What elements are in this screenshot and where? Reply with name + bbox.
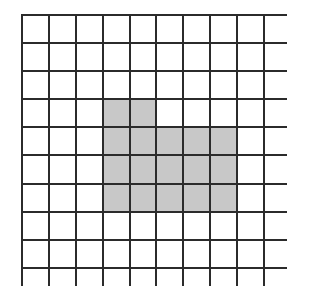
grid-cell-empty[interactable] <box>76 184 103 212</box>
grid-cell-empty[interactable] <box>103 212 130 240</box>
grid-cell-empty[interactable] <box>156 43 183 71</box>
grid-cell-empty[interactable] <box>49 43 76 71</box>
grid-cell-empty[interactable] <box>183 268 210 286</box>
grid-cell-empty[interactable] <box>210 15 237 43</box>
grid-cell-empty[interactable] <box>156 15 183 43</box>
grid-cell-shaded[interactable] <box>130 184 157 212</box>
grid-cell-empty[interactable] <box>103 71 130 99</box>
grid-cell-empty[interactable] <box>103 15 130 43</box>
grid-cell-empty[interactable] <box>103 43 130 71</box>
grid-cell-shaded[interactable] <box>156 155 183 183</box>
grid-cell-empty[interactable] <box>210 99 237 127</box>
grid-cell-empty[interactable] <box>264 268 287 286</box>
grid-cell-empty[interactable] <box>237 212 264 240</box>
grid-cell-shaded[interactable] <box>210 155 237 183</box>
grid-cell-empty[interactable] <box>49 240 76 268</box>
grid-cell-empty[interactable] <box>237 127 264 155</box>
grid-cell-shaded[interactable] <box>103 127 130 155</box>
grid-cell-empty[interactable] <box>130 268 157 286</box>
grid-cell-empty[interactable] <box>49 268 76 286</box>
grid-cell-empty[interactable] <box>237 155 264 183</box>
grid-cell-shaded[interactable] <box>130 155 157 183</box>
grid-cell-empty[interactable] <box>264 240 287 268</box>
grid-cell-empty[interactable] <box>156 240 183 268</box>
grid-cell-empty[interactable] <box>156 99 183 127</box>
grid-cell-empty[interactable] <box>210 71 237 99</box>
grid-cell-empty[interactable] <box>130 212 157 240</box>
grid-cell-empty[interactable] <box>237 43 264 71</box>
grid-cell-empty[interactable] <box>237 71 264 99</box>
grid-cell-empty[interactable] <box>130 43 157 71</box>
grid-cell-empty[interactable] <box>103 268 130 286</box>
grid-cell-shaded[interactable] <box>210 184 237 212</box>
grid-cell-empty[interactable] <box>183 43 210 71</box>
grid-cell-empty[interactable] <box>22 71 49 99</box>
grid-cell-empty[interactable] <box>76 268 103 286</box>
grid-cell-empty[interactable] <box>49 212 76 240</box>
grid-cell-empty[interactable] <box>156 212 183 240</box>
grid-cell-empty[interactable] <box>264 43 287 71</box>
grid-cell-shaded[interactable] <box>103 184 130 212</box>
grid-cell-empty[interactable] <box>237 15 264 43</box>
grid-cell-empty[interactable] <box>183 71 210 99</box>
grid-cell-empty[interactable] <box>130 240 157 268</box>
grid-cell-empty[interactable] <box>76 240 103 268</box>
grid-cell-shaded[interactable] <box>183 184 210 212</box>
grid-cell-empty[interactable] <box>76 212 103 240</box>
grid-cell-shaded[interactable] <box>130 127 157 155</box>
grid-cell-empty[interactable] <box>22 155 49 183</box>
grid-cell-empty[interactable] <box>183 212 210 240</box>
grid-cell-empty[interactable] <box>183 15 210 43</box>
grid-cell-empty[interactable] <box>76 71 103 99</box>
grid-cell-shaded[interactable] <box>183 127 210 155</box>
grid-cell-shaded[interactable] <box>103 99 130 127</box>
grid-cell-empty[interactable] <box>76 43 103 71</box>
grid-cell-empty[interactable] <box>237 99 264 127</box>
grid-cell-empty[interactable] <box>22 184 49 212</box>
grid-cell-empty[interactable] <box>264 155 287 183</box>
grid-cell-empty[interactable] <box>49 99 76 127</box>
grid-cell-empty[interactable] <box>49 127 76 155</box>
grid-cell-empty[interactable] <box>22 43 49 71</box>
grid-cell-empty[interactable] <box>210 240 237 268</box>
grid-cell-empty[interactable] <box>237 184 264 212</box>
grid-cell-empty[interactable] <box>130 71 157 99</box>
grid-cell-shaded[interactable] <box>156 184 183 212</box>
grid-cell-empty[interactable] <box>210 43 237 71</box>
grid-cell-empty[interactable] <box>49 71 76 99</box>
grid-cell-empty[interactable] <box>76 99 103 127</box>
grid-cell-empty[interactable] <box>264 15 287 43</box>
grid-cell-empty[interactable] <box>103 240 130 268</box>
grid-cell-empty[interactable] <box>22 15 49 43</box>
grid-cell-empty[interactable] <box>210 268 237 286</box>
grid-cell-shaded[interactable] <box>103 155 130 183</box>
grid-cell-empty[interactable] <box>156 71 183 99</box>
grid-cell-empty[interactable] <box>76 127 103 155</box>
grid-cell-empty[interactable] <box>156 268 183 286</box>
grid-cell-empty[interactable] <box>49 184 76 212</box>
grid-cell-empty[interactable] <box>210 212 237 240</box>
grid-cell-empty[interactable] <box>49 15 76 43</box>
grid-cell-empty[interactable] <box>237 268 264 286</box>
grid-cell-empty[interactable] <box>183 99 210 127</box>
grid-cell-empty[interactable] <box>22 99 49 127</box>
grid-cell-empty[interactable] <box>264 184 287 212</box>
grid-cell-empty[interactable] <box>76 155 103 183</box>
grid-cell-empty[interactable] <box>264 99 287 127</box>
grid-cell-empty[interactable] <box>264 71 287 99</box>
grid-cell-shaded[interactable] <box>183 155 210 183</box>
grid-cell-empty[interactable] <box>49 155 76 183</box>
grid-cell-empty[interactable] <box>22 212 49 240</box>
grid-cell-empty[interactable] <box>183 240 210 268</box>
grid-cell-shaded[interactable] <box>210 127 237 155</box>
grid-cell-empty[interactable] <box>22 127 49 155</box>
grid-cell-empty[interactable] <box>22 268 49 286</box>
grid-cell-empty[interactable] <box>130 15 157 43</box>
grid-cell-shaded[interactable] <box>130 99 157 127</box>
grid-cell-empty[interactable] <box>76 15 103 43</box>
grid-cell-empty[interactable] <box>237 240 264 268</box>
grid-cell-empty[interactable] <box>22 240 49 268</box>
grid-cell-empty[interactable] <box>264 127 287 155</box>
grid-cell-empty[interactable] <box>264 212 287 240</box>
grid-cell-shaded[interactable] <box>156 127 183 155</box>
